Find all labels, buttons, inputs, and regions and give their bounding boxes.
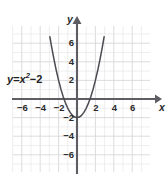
axes [12,16,162,174]
y-tick-label: −2 [62,113,74,123]
y-tick-label: 4 [62,57,74,67]
coordinate-plane [0,0,168,177]
y-tick-label: 2 [62,75,74,85]
x-axis-label: x [159,102,165,113]
y-tick-label: −4 [62,131,74,141]
equation-label: y=x2−2 [7,71,42,85]
y-axis-label: y [67,14,73,25]
equation-constant: 2 [36,73,42,85]
y-tick-label: −6 [62,150,74,160]
y-tick-label: 6 [62,38,74,48]
x-tick-label: −4 [34,103,47,113]
x-tick-label: −6 [16,103,29,113]
x-tick-label: 6 [126,103,139,113]
x-tick-label: 4 [108,103,121,113]
x-tick-label: 2 [89,103,102,113]
graph-figure: y=x2−2 −6−4−2246642−2−4−6 x y [0,0,168,177]
